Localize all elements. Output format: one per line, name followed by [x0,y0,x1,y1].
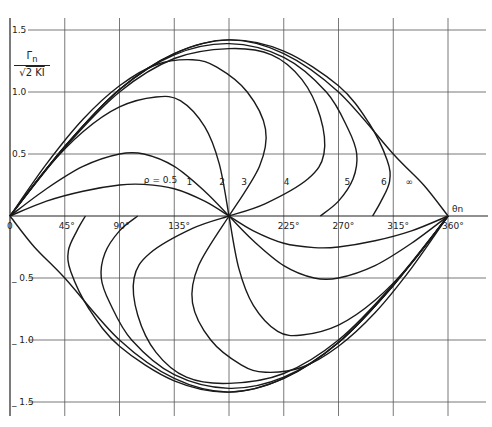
curve-label: 5 [345,177,351,187]
x-tick-label: 225° [278,221,300,231]
x-tick-label: 270° [333,221,355,231]
curve-lower [101,216,448,388]
curve-label: 6 [381,177,387,187]
curve-lower [68,216,448,392]
y-tick-label: 1.5 [12,25,26,35]
x-axis-label: θn [452,204,463,214]
curve-upper [10,40,390,216]
x-tick-label: 135° [168,221,190,231]
curve-upper [10,60,266,216]
curve-label: ρ = 0.5 [144,175,177,185]
y-tick-label: 1.0 [12,87,27,97]
curve-label: 2 [219,177,225,187]
x-tick-label: 360° [442,221,464,231]
y-tick-label: _ 0.5 [11,273,34,283]
curve-lower [133,216,448,384]
x-tick-label: 45° [59,221,75,231]
x-tick-label: 315° [387,221,409,231]
curve-label: 3 [241,177,247,187]
curve-lower [192,216,448,372]
curve-upper [10,48,325,216]
curve-label: 4 [284,177,290,187]
curve-labels: ρ = 0.5123456∞ [144,175,413,187]
curve-label: 1 [186,177,192,187]
y-tick-label: _ 1.5 [11,397,34,407]
curve-label: ∞ [405,177,413,187]
curve-upper [10,44,357,216]
grid [10,18,488,416]
y-tick-label: 0.5 [12,149,26,159]
y-tick-label: _ 1.0 [11,335,34,345]
chart-canvas: 045°90°135°225°270°315°360°1.51.00.5_ 0.… [0,0,492,427]
x-tick-label: 0 [7,221,13,231]
